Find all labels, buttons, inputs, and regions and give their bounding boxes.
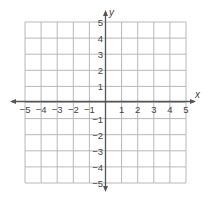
y-axis-down-arrow-icon xyxy=(103,186,108,192)
y-tick-label: −5 xyxy=(92,178,103,189)
x-tick-label: −3 xyxy=(52,104,63,115)
x-tick-label: −5 xyxy=(20,104,31,115)
y-axis-up-arrow-icon xyxy=(103,10,108,16)
x-tick-label: 3 xyxy=(151,104,156,115)
coordinate-grid: x y −5−4−3−2−112345 54321−1−2−3−4−5 xyxy=(0,0,203,198)
y-tick-label: −2 xyxy=(92,130,103,141)
x-tick-label: 5 xyxy=(183,104,188,115)
y-tick-label: 3 xyxy=(98,49,103,60)
x-tick-label: −4 xyxy=(36,104,47,115)
y-tick-label: −3 xyxy=(92,146,103,157)
x-tick-label: 4 xyxy=(167,104,172,115)
y-tick-label: −4 xyxy=(92,162,103,173)
y-tick-label: −1 xyxy=(92,114,103,125)
y-tick-label: 2 xyxy=(98,65,103,76)
x-axis-left-arrow-icon xyxy=(10,99,16,104)
y-tick-label: 1 xyxy=(98,81,103,92)
x-tick-label: −2 xyxy=(68,104,79,115)
y-tick-label: 5 xyxy=(98,17,103,28)
x-tick-label: 1 xyxy=(119,104,124,115)
x-axis-label: x xyxy=(194,89,201,100)
x-tick-labels: −5−4−3−2−112345 xyxy=(20,104,189,115)
y-axis-label: y xyxy=(108,7,115,18)
x-tick-label: 2 xyxy=(135,104,140,115)
y-tick-label: 4 xyxy=(98,33,103,44)
